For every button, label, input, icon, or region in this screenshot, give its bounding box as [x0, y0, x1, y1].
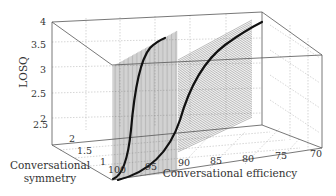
svg-text:95: 95	[145, 161, 157, 172]
svg-text:85: 85	[210, 155, 222, 166]
y-axis-label-line2: symmetry	[24, 172, 77, 184]
svg-text:2.5: 2.5	[33, 119, 48, 130]
y-axis-label-line1: Conversational	[10, 159, 91, 171]
svg-text:2.5: 2.5	[31, 88, 46, 99]
svg-text:2: 2	[69, 133, 75, 144]
svg-text:3: 3	[40, 64, 46, 75]
svg-text:100: 100	[108, 164, 126, 175]
svg-text:80: 80	[242, 153, 254, 164]
z-axis-ticks: 4 3.5 3 2.5 2	[31, 16, 46, 124]
svg-text:70: 70	[310, 148, 322, 159]
svg-text:3.5: 3.5	[31, 39, 46, 50]
svg-text:1.5: 1.5	[77, 145, 92, 156]
3d-chart: 4 3.5 3 2.5 2 LOSQ 2.5 2 1.5 1 Conversat…	[0, 0, 336, 196]
x-axis-label: Conversational efficiency	[163, 167, 298, 179]
svg-text:75: 75	[275, 150, 287, 161]
svg-text:4: 4	[40, 16, 46, 27]
z-axis-label: LOSQ	[17, 56, 29, 88]
svg-text:1: 1	[100, 156, 106, 167]
surface-slice-front	[113, 31, 177, 179]
